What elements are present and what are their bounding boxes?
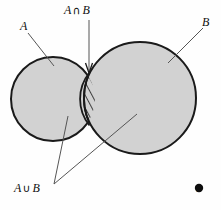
set-a-label: A: [20, 20, 28, 32]
union-label-right: B: [32, 181, 40, 195]
point-c-label-text: c: [196, 182, 201, 194]
union-label-left: A: [14, 181, 22, 195]
set-a-circle: [11, 57, 95, 141]
intersection-operator-icon: ∩: [72, 4, 83, 17]
leader-line-b: [168, 28, 203, 63]
set-b-circle: [84, 42, 196, 154]
set-a-label-text: A: [20, 19, 28, 33]
intersection-label: A∩B: [64, 4, 90, 16]
venn-diagram-canvas: [0, 0, 221, 210]
venn-diagram-figure: A B A∩B A∪B c: [0, 0, 221, 210]
intersection-label-left: A: [64, 3, 72, 17]
union-label: A∪B: [14, 182, 40, 194]
point-c-label: c: [196, 183, 201, 194]
union-operator-icon: ∪: [22, 182, 33, 195]
set-b-label: B: [202, 16, 210, 28]
intersection-label-right: B: [82, 3, 90, 17]
set-b-label-text: B: [202, 15, 210, 29]
